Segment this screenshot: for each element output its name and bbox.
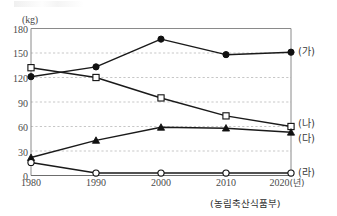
- x-tick-1990: 1990: [66, 178, 126, 188]
- legend-label-da: (다): [298, 134, 315, 144]
- x-tick-2000: 2000: [131, 178, 191, 188]
- chart-container: (kg) 180 150 120 90 60 30 0 1980 1990 20…: [0, 0, 337, 216]
- x-tick-1980: 1980: [1, 178, 61, 188]
- legend-label-ga: (가): [298, 47, 315, 57]
- legend-label-ra: (라): [298, 168, 315, 178]
- x-tick-2020-year: 2020: [269, 177, 289, 188]
- x-tick-2010: 2010: [196, 178, 256, 188]
- legend-label-na: (나): [298, 119, 315, 129]
- x-axis-unit-label: (년): [289, 178, 304, 188]
- x-tick-2020: 2020(년): [257, 178, 317, 188]
- source-attribution: (농림축산식품부): [210, 196, 280, 210]
